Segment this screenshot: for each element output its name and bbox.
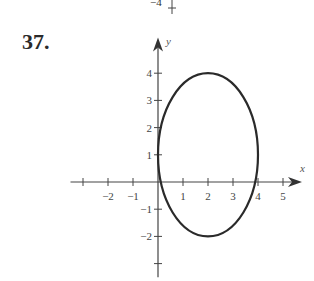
y-tick-label: −1 (140, 203, 152, 215)
x-tick-label: −2 (102, 190, 114, 202)
y-tick-label: 4 (147, 67, 153, 79)
x-tick-label: 3 (230, 190, 236, 202)
x-tick-label: −1 (127, 190, 139, 202)
y-axis-label: y (165, 35, 171, 47)
x-tick-label: 4 (255, 190, 261, 202)
x-axis-label: x (299, 162, 305, 174)
x-tick-label: 5 (280, 190, 286, 202)
x-tick-label: 1 (180, 190, 186, 202)
x-tick-label: 2 (205, 190, 211, 202)
y-tick-label: 1 (147, 149, 153, 161)
y-tick-label: 2 (147, 122, 153, 134)
ellipse-graph: xy−2−112345−2−11234 (0, 0, 314, 281)
y-tick-label: 3 (147, 94, 153, 106)
ellipse-curve (158, 73, 258, 236)
y-tick-label: −2 (140, 230, 152, 242)
